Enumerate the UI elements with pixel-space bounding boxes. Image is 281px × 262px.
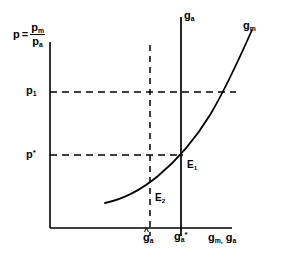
economics-diagram-figure: p = pm pa p1 p* ^ga ga* gm, ga ga gm E1 … [0,0,281,262]
y-tick-label-p-star: p* [26,149,36,160]
curve-label-ga: ga [184,10,195,21]
y-axis-label-denominator: pa [31,35,44,47]
y-axis-label-equals: = [22,29,28,40]
x-axis-label: gm, ga [208,232,236,243]
curve-label-gm: gm [243,20,256,31]
hat-accent-icon: ^ [144,227,149,236]
y-axis-label-numerator: pm [30,22,45,34]
point-label-e2: E2 [155,193,165,203]
y-axis-label-p: p [13,29,20,40]
y-tick-label-p1: p1 [26,85,37,96]
x-tick-label-g-a-hat: ^ga [143,232,154,243]
y-axis-label: p = pm pa [13,22,45,47]
y-axis-label-fraction: pm pa [30,22,45,47]
point-label-e1: E1 [187,160,197,170]
curve-gm-path [105,30,252,203]
x-tick-label-g-a-star: ga* [174,231,188,242]
